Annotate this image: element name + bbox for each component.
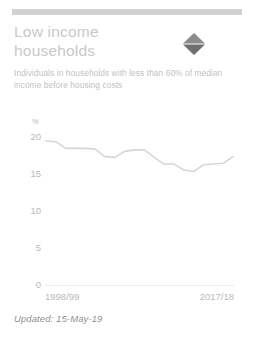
y-tick-label-5: 5 (36, 242, 41, 253)
card-accent-bar (12, 9, 242, 15)
y-tick-label-0: 0 (36, 279, 41, 290)
y-tick-label-10: 10 (30, 205, 41, 216)
page-title: Low income households (14, 22, 154, 60)
series-line-low-income (46, 141, 233, 172)
diamond-indicator-icon[interactable] (180, 30, 208, 58)
indicator-card: Low income households Individuals in hou… (0, 0, 254, 344)
card-footer: Updated: 15-May-19 (14, 313, 240, 324)
x-axis-end-label: 2017/18 (200, 291, 234, 302)
y-axis-unit-label: % (32, 117, 39, 126)
updated-timestamp: Updated: 15-May-19 (14, 313, 240, 324)
x-axis-start-label: 1998/99 (45, 291, 79, 302)
y-tick-label-20: 20 (30, 131, 41, 142)
card-subtitle: Individuals in households with less than… (14, 68, 224, 91)
y-tick-label-15: 15 (30, 168, 41, 179)
low-income-line-chart: % 20 15 10 5 0 1998/99 2017/18 (0, 112, 254, 302)
